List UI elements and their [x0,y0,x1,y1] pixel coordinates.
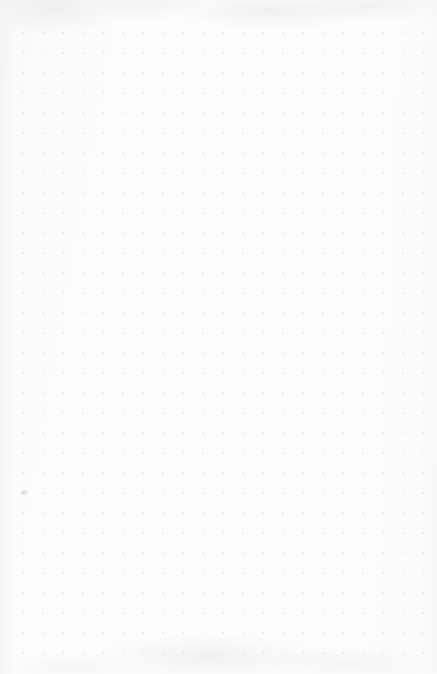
dot-grid-page [0,0,437,674]
paper-background [0,0,437,674]
